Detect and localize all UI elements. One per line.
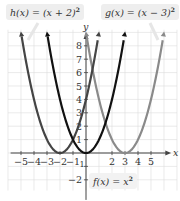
g-label-text: g(x) = (x − 3) <box>105 7 171 18</box>
y-tick-label: 1 <box>76 134 82 145</box>
legend-label-f: f(x) = x2 <box>89 173 137 189</box>
parabola-curve <box>87 36 163 153</box>
x-tick-label: −1 <box>66 156 80 167</box>
x-tick-label: −3 <box>40 156 54 167</box>
y-tick-label: 6 <box>76 67 82 78</box>
f-label-exponent: 2 <box>129 175 133 182</box>
f-label-text: f(x) = x <box>93 176 129 187</box>
x-tick-label: 4 <box>135 156 141 167</box>
h-label-text: h(x) = (x + 2) <box>10 7 76 18</box>
x-tick-label: −2 <box>53 156 67 167</box>
legend-label-g: g(x) = (x − 3)2 <box>101 4 179 20</box>
x-axis-arrow-icon <box>165 151 171 156</box>
y-axis-label: y <box>82 21 89 32</box>
x-tick-label: 3 <box>122 156 128 167</box>
x-axis-label: x <box>173 147 179 158</box>
x-tick-label: 2 <box>109 156 115 167</box>
h-label-exponent: 2 <box>76 6 80 13</box>
legend-label-h: h(x) = (x + 2)2 <box>6 4 84 20</box>
x-tick-label: 1 <box>79 160 84 169</box>
x-tick-label: −4 <box>27 156 41 167</box>
y-tick-label: 8 <box>76 40 82 51</box>
g-label-exponent: 2 <box>171 6 175 13</box>
y-tick-label: 4 <box>76 94 82 105</box>
y-tick-label: 7 <box>76 54 82 65</box>
x-tick-label: 5 <box>148 156 154 167</box>
x-tick-label: −5 <box>14 156 28 167</box>
y-tick-label: 5 <box>76 81 82 92</box>
parabola-chart: xy−5−4−3−2−123451−212345678 <box>0 0 180 201</box>
y-tick-label: −2 <box>68 174 82 185</box>
